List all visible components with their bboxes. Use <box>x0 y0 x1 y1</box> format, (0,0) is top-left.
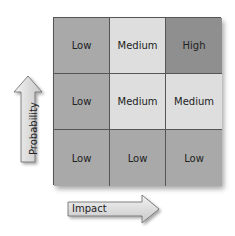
cell-r1-c0: Low <box>54 74 110 130</box>
cell-r2-c2: Low <box>166 130 222 186</box>
impact-label: Impact <box>72 203 107 214</box>
cell-r0-c1: Medium <box>110 18 166 74</box>
probability-label: Probability <box>28 102 39 155</box>
cell-r0-c2: High <box>166 18 222 74</box>
cell-r0-c0: Low <box>54 18 110 74</box>
risk-matrix: Low Medium High Low Medium Medium Low Lo… <box>53 17 221 185</box>
cell-r1-c2: Medium <box>166 74 222 130</box>
cell-r2-c1: Low <box>110 130 166 186</box>
cell-r1-c1: Medium <box>110 74 166 130</box>
cell-r2-c0: Low <box>54 130 110 186</box>
